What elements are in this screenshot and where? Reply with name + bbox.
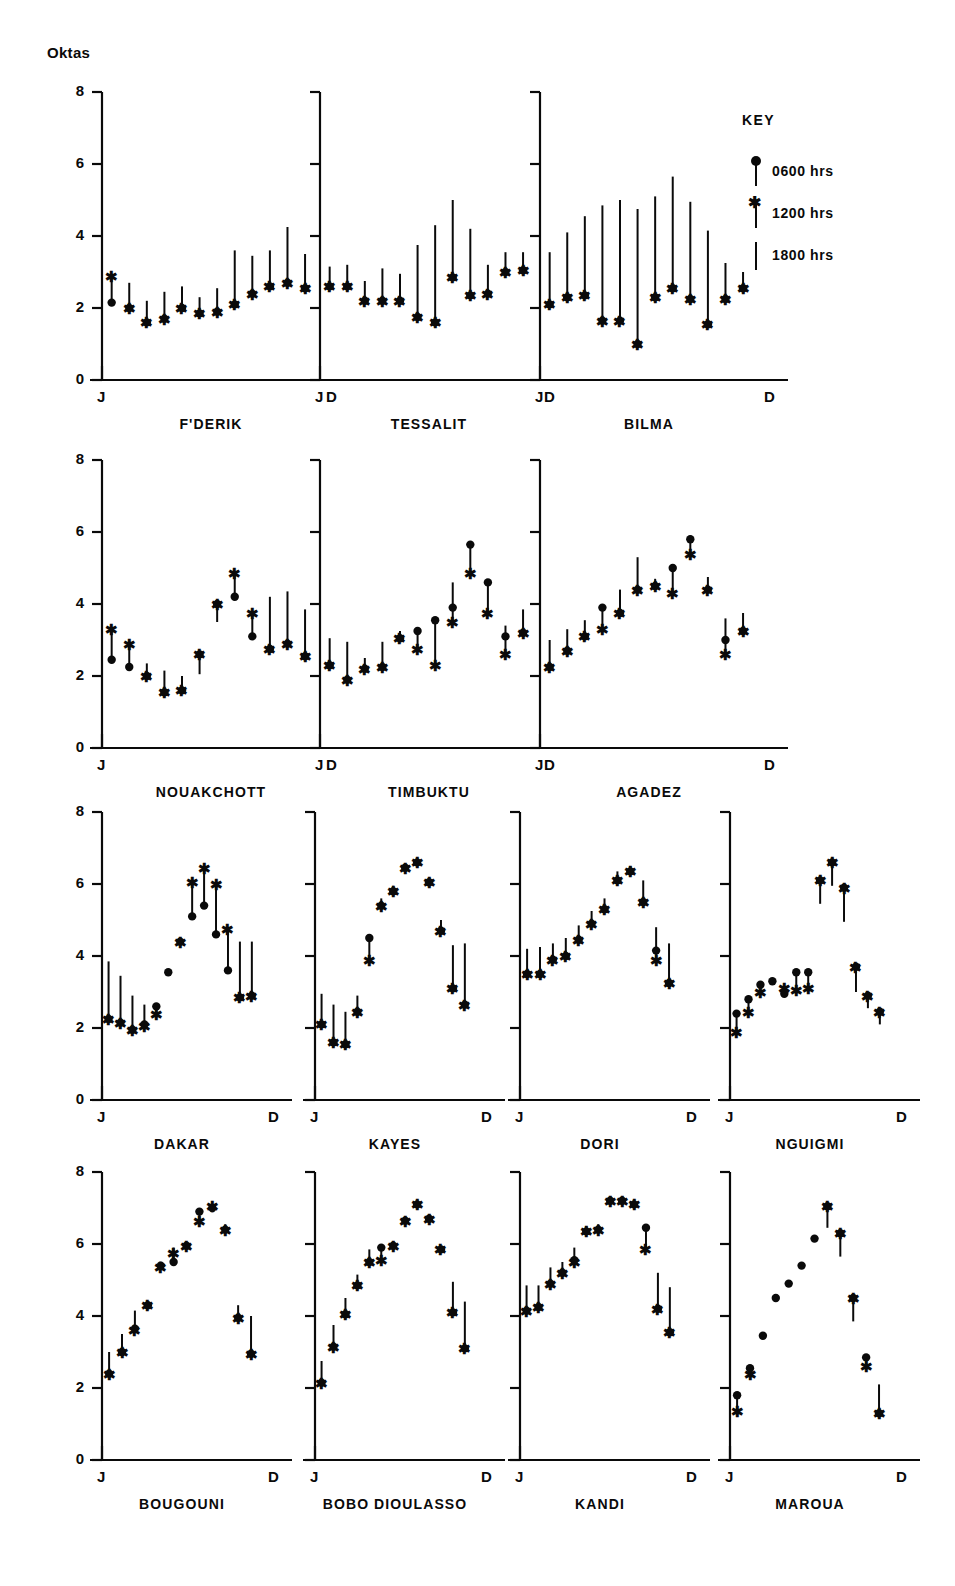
data-point-0600 [721,636,729,644]
data-point-1200: ✱ [411,309,424,326]
panel-title: NGUIGMI [775,1136,844,1152]
data-point-1200: ✱ [802,980,815,997]
data-point-0600 [686,535,694,543]
data-point-1200: ✱ [826,854,839,871]
data-point-0600 [772,1294,780,1302]
x-axis-tick-label-end: D [896,1108,907,1125]
data-point-0600 [107,656,115,664]
data-point-1200: ✱ [464,565,477,582]
data-point-1200: ✱ [341,672,354,689]
data-point-1200: ✱ [167,1245,180,1262]
data-point-1200: ✱ [434,1241,447,1258]
panel-title: TESSALIT [391,416,467,432]
data-point-1200: ✱ [123,636,136,653]
data-point-0600 [642,1224,650,1232]
data-point-0600 [212,930,220,938]
panel-title: BOUGOUNI [139,1496,225,1512]
data-point-1200: ✱ [193,646,206,663]
data-point-1200: ✱ [744,1366,757,1383]
data-point-1200: ✱ [323,278,336,295]
data-point-1200: ✱ [585,916,598,933]
x-axis-tick-label-start: J [515,1468,523,1485]
data-point-1200: ✱ [358,293,371,310]
data-point-1200: ✱ [376,293,389,310]
y-axis-tick-label: 6 [66,522,84,539]
data-point-1200: ✱ [128,1322,141,1339]
data-point-1200: ✱ [158,311,171,328]
data-point-1200: ✱ [613,313,626,330]
x-axis-tick-label-end: D [764,388,775,405]
data-point-0600 [188,912,196,920]
data-point-1200: ✱ [140,314,153,331]
data-point-1200: ✱ [315,1375,328,1392]
data-point-0600 [224,966,232,974]
data-point-1200: ✱ [578,628,591,645]
data-point-1200: ✱ [559,948,572,965]
data-point-1200: ✱ [180,1238,193,1255]
data-point-1200: ✱ [363,952,376,969]
data-point-1200: ✱ [649,578,662,595]
data-point-0600 [792,968,800,976]
data-point-1200: ✱ [246,286,259,303]
data-point-1200: ✱ [849,959,862,976]
data-point-1200: ✱ [701,582,714,599]
x-axis-tick-label-start: J [535,756,543,773]
data-point-1200: ✱ [719,291,732,308]
panel-title: MAROUA [775,1496,845,1512]
data-point-1200: ✱ [578,287,591,304]
x-axis-tick-label-end: D [764,756,775,773]
data-point-0600 [759,1332,767,1340]
data-point-0600 [125,663,133,671]
data-point-1200: ✱ [651,1301,664,1318]
data-point-1200: ✱ [847,1290,860,1307]
x-axis-tick-label-start: J [97,388,105,405]
y-axis-tick-label: 8 [66,1162,84,1179]
y-axis-tick-label: 2 [66,1378,84,1395]
data-point-1200: ✱ [123,300,136,317]
data-point-1200: ✱ [103,1366,116,1383]
data-point-1200: ✱ [611,872,624,889]
data-point-0600 [810,1234,818,1242]
data-point-1200: ✱ [814,872,827,889]
data-point-0600 [744,995,752,1003]
data-point-1200: ✱ [446,1304,459,1321]
x-axis-tick-label-start: J [315,756,323,773]
data-point-1200: ✱ [731,1403,744,1420]
x-axis-tick-label-start: J [725,1108,733,1125]
data-point-1200: ✱ [532,1299,545,1316]
data-point-1200: ✱ [464,287,477,304]
data-point-0600 [365,934,373,942]
data-point-1200: ✱ [631,582,644,599]
y-axis-tick-label: 6 [66,1234,84,1251]
y-axis-tick-label: 4 [66,946,84,963]
data-point-1200: ✱ [116,1344,129,1361]
data-point-1200: ✱ [393,293,406,310]
data-point-1200: ✱ [193,305,206,322]
data-point-1200: ✱ [521,966,534,983]
panel-title: BOBO DIOULASSO [323,1496,468,1512]
data-point-1200: ✱ [546,952,559,969]
y-axis-tick-label: 4 [66,226,84,243]
data-point-1200: ✱ [742,1004,755,1021]
panel-title: F'DERIK [179,416,242,432]
x-axis-tick-label-start: J [315,388,323,405]
data-point-1200: ✱ [411,641,424,658]
y-axis-tick-label: 6 [66,154,84,171]
data-point-1200: ✱ [315,1016,328,1033]
data-point-0600 [598,603,606,611]
data-point-1200: ✱ [399,1213,412,1230]
panel-plot-area: ✱✱✱✱✱✱✱✱✱✱✱✱ [670,798,950,1166]
data-point-0600 [785,1279,793,1287]
data-point-0600 [231,593,239,601]
data-point-0600 [733,1391,741,1399]
data-point-0600 [107,298,115,306]
y-axis-tick-label: 2 [66,666,84,683]
data-point-0600 [804,968,812,976]
data-point-1200: ✱ [561,643,574,660]
data-point-1200: ✱ [873,1004,886,1021]
data-point-1200: ✱ [596,621,609,638]
y-axis-tick-label: 0 [66,1450,84,1467]
data-point-1200: ✱ [754,984,767,1001]
data-point-1200: ✱ [211,596,224,613]
data-point-0600 [200,901,208,909]
